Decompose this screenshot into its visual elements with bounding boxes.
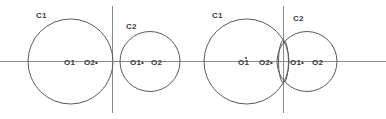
panel-3-label-o1-right: O1• <box>290 59 304 67</box>
panel-1-label-o1: O1 <box>64 59 75 67</box>
panel-3-label-o1-left: O1 <box>238 59 249 67</box>
panel-3-label-c1: C1 <box>212 12 223 20</box>
panel-1-group <box>0 6 120 113</box>
panel-1-label-c1: C1 <box>36 12 47 20</box>
panel-3-label-c2: C2 <box>293 15 304 23</box>
panel-1-label-o2: O2• <box>84 59 98 67</box>
panel-3-center-dot-c1 <box>245 57 247 59</box>
panel-2-label-c2: C2 <box>126 23 137 31</box>
panel-3-label-o2-right: O2 <box>312 59 323 67</box>
panel-3-label-o2-left: O2• <box>259 59 273 67</box>
panel-2-label-o2: O2 <box>151 59 162 67</box>
geometry-figure: C1 O1 O2• C2 O1• O2 C1 C2 O1 O2• O1• O2 <box>0 0 386 119</box>
panel-2-label-o1: O1• <box>130 59 144 67</box>
figure-canvas <box>0 0 386 119</box>
